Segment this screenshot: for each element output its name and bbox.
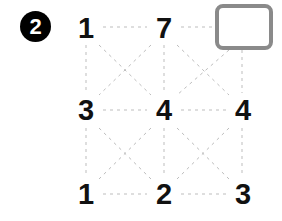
connector-diagonal	[177, 50, 229, 95]
grid-cell-r1c2: 4	[226, 93, 260, 127]
grid-cell-r2c0: 1	[69, 177, 103, 211]
connector-diagonal	[177, 45, 229, 95]
grid-cell-r2c2: 3	[226, 177, 260, 211]
answer-input-box[interactable]	[215, 4, 273, 50]
connector-diagonal	[99, 45, 151, 95]
grid-cell-r0c0: 1	[69, 11, 103, 45]
grid-cell-r1c1: 4	[147, 93, 181, 127]
grid-cell-r0c1: 7	[147, 11, 181, 45]
connector-diagonal	[177, 128, 229, 179]
grid-cell-r2c1: 2	[147, 177, 181, 211]
puzzle-canvas: 2 1 7	[0, 0, 282, 221]
connector-diagonal	[99, 128, 151, 179]
grid-cell-r1c0: 3	[69, 93, 103, 127]
